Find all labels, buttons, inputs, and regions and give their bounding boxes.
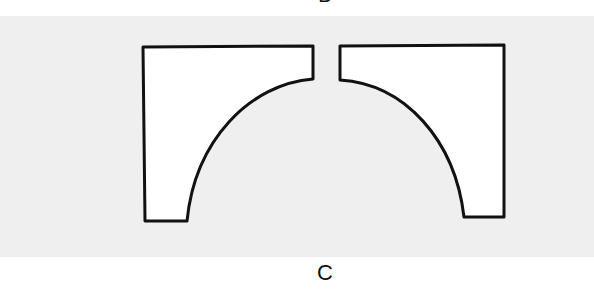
left-arch-half xyxy=(143,46,313,221)
figure-label-c: C xyxy=(300,260,350,286)
right-arch-half xyxy=(340,45,504,217)
arch-diagram xyxy=(0,0,594,293)
